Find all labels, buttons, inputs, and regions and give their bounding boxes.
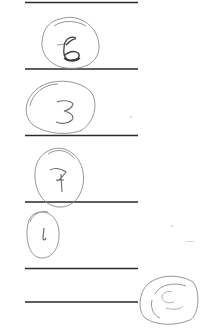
digit-label: 6 — [0, 0, 1, 1]
stray-marks — [130, 116, 194, 242]
digit-label: 6 — [0, 0, 1, 1]
pencil-circle-inner — [151, 300, 160, 318]
stray-dash — [186, 241, 194, 242]
handwritten-sheet: 6 3 7 1 6 — [0, 0, 200, 334]
circled-digit-1: 6 — [0, 0, 99, 68]
digit-three-glyph — [56, 101, 73, 124]
circled-digit-2: 3 — [0, 0, 95, 133]
digit-label: 3 — [0, 0, 1, 1]
pencil-circle — [26, 81, 95, 133]
pencil-circle-inner — [155, 284, 186, 294]
circled-digit-4: 1 — [0, 0, 59, 258]
pencil-circle — [35, 148, 84, 207]
pencil-circle-inner — [30, 212, 48, 222]
digit-one-glyph — [43, 228, 46, 240]
circled-digit-3: 7 — [0, 0, 84, 207]
digit-six-glyph — [64, 37, 80, 61]
speck — [171, 225, 173, 227]
pencil-circle-inner — [54, 22, 86, 27]
speck — [130, 116, 132, 118]
pencil-circle — [140, 276, 198, 324]
pencil-circle-inner — [30, 84, 58, 106]
digit-six-glyph — [162, 291, 183, 309]
digit-seven-glyph — [50, 169, 66, 192]
